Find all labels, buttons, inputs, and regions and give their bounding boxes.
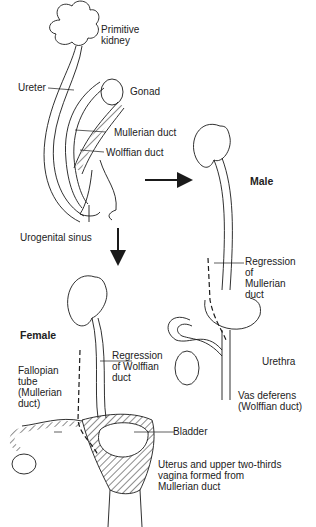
female-kidney-shape [68,276,107,326]
ovary-shape [12,454,36,474]
label-fallopian-tube: Fallopian tube (Mullerian duct) [18,365,62,409]
label-gonad: Gonad [130,86,160,97]
label-mullerian-duct: Mullerian duct [114,127,176,138]
label-bladder: Bladder [173,426,207,437]
label-ureter: Ureter [18,82,46,93]
male-bladder-shape [205,298,261,329]
testis-shape [175,351,199,385]
primitive-kidney-shape [50,1,99,45]
label-urogenital-sinus: Urogenital sinus [20,232,92,243]
label-primitive-kidney: Primitive kidney [101,24,139,46]
label-regression-wolffian: Regression of Wolffian duct [112,350,163,383]
male-kidney-shape [193,124,230,167]
title-female: Female [20,330,56,341]
label-vas-deferens: Vas deferens (Wolffian duct) [238,390,302,412]
fallopian-tube-shape [12,423,82,450]
label-wolffian-duct: Wolffian duct [106,147,163,158]
gonad-shape [101,79,123,105]
title-male: Male [250,176,273,187]
label-uterus-vagina: Uterus and upper two-thirds vagina forme… [158,459,281,492]
label-urethra: Urethra [262,356,295,367]
label-regression-mullerian: Regression of Mullerian duct [245,256,296,300]
